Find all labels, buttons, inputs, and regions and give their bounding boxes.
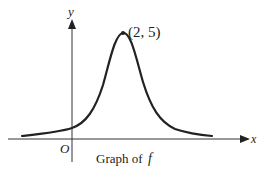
origin-label: O (60, 141, 70, 156)
y-axis-arrow-icon (68, 19, 76, 29)
graph-of-f: x y O (2, 5) Graph of f (0, 0, 257, 171)
peak-point (121, 31, 125, 35)
x-axis-arrow-icon (240, 135, 250, 143)
x-axis-label: x (250, 132, 257, 146)
caption-function: f (148, 151, 154, 166)
caption-prefix: Graph of (96, 151, 143, 166)
peak-label: (2, 5) (128, 24, 161, 41)
y-axis-label: y (66, 4, 74, 19)
curve-f (22, 33, 212, 136)
